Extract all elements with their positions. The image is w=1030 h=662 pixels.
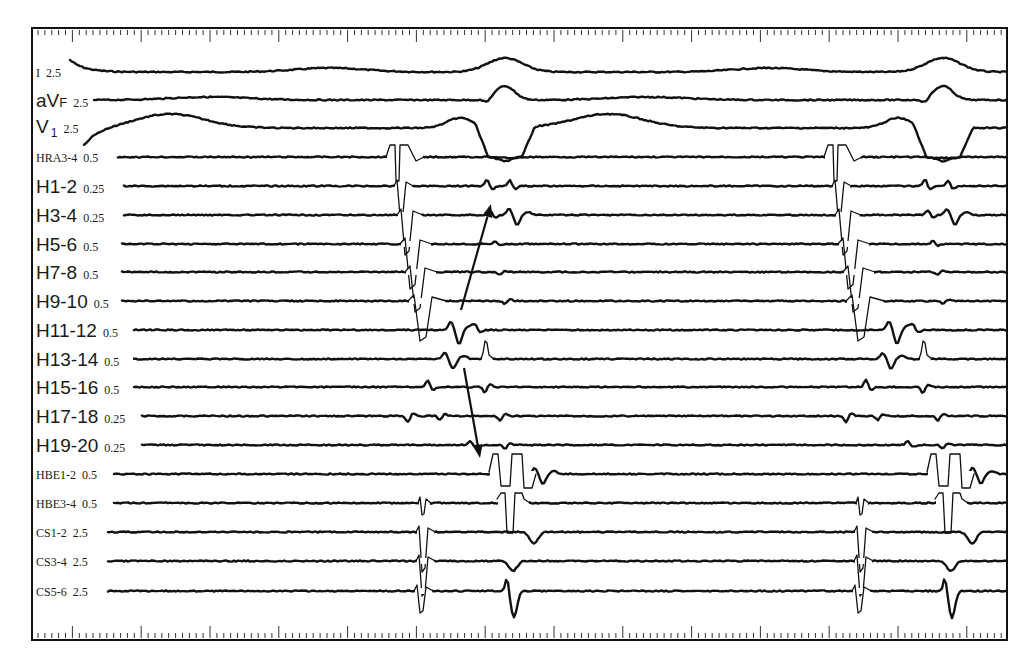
channel-gain: 0.25 — [83, 211, 104, 225]
trace-h15-16 — [134, 380, 1006, 393]
channel-label-h19-20: H19-200.25 — [36, 436, 125, 455]
trace-h13-14 — [134, 341, 1006, 368]
channel-label-hra3-4: HRA3-40.5 — [36, 149, 98, 165]
trace-h7-8 — [122, 266, 1006, 312]
channel-gain: 2.5 — [46, 66, 61, 80]
channel-name: CS1-2 — [36, 527, 67, 539]
channel-gain: 0.5 — [103, 326, 118, 340]
trace-h1-2 — [124, 180, 1006, 216]
channel-gain: 2.5 — [73, 585, 88, 599]
trace-v1 — [84, 114, 1006, 159]
channel-name: H1-2 — [36, 177, 77, 196]
channel-gain: 0.5 — [104, 355, 119, 369]
channel-name: CS5-6 — [36, 586, 67, 598]
channel-label-cs3-4: CS3-42.5 — [36, 553, 88, 569]
electrogram-traces — [0, 0, 1030, 662]
channel-name: HBE3-4 — [36, 498, 76, 510]
trace-hra3-4 — [118, 145, 1006, 181]
channel-name: H5-6 — [36, 235, 77, 254]
channel-label-hbe3-4: HBE3-40.5 — [36, 495, 97, 511]
channel-label-h7-8: H7-80.5 — [36, 263, 98, 282]
channel-name: H19-20 — [36, 436, 98, 455]
channel-gain: 2.5 — [73, 96, 88, 110]
trace-h19-20 — [142, 441, 1006, 448]
trace-h11-12 — [134, 322, 1006, 343]
channel-subscript: 1 — [51, 126, 58, 140]
channel-name: H17-18 — [36, 407, 98, 426]
channel-label-cs1-2: CS1-22.5 — [36, 524, 88, 540]
channel-label-h13-14: H13-140.5 — [36, 350, 119, 369]
channel-name: V — [36, 117, 49, 136]
channel-label-h3-4: H3-40.25 — [36, 206, 104, 225]
channel-traces — [70, 58, 1006, 619]
channel-gain: 0.5 — [83, 268, 98, 282]
channel-name: H7-8 — [36, 263, 77, 282]
trace-h17-18 — [142, 414, 1006, 423]
channel-name: CS3-4 — [36, 556, 67, 568]
channel-gain: 2.5 — [63, 122, 78, 136]
channel-gain: 0.5 — [104, 383, 119, 397]
channel-name: HBE1-2 — [36, 469, 76, 481]
channel-gain: 0.25 — [104, 441, 125, 455]
channel-gain: 0.5 — [83, 240, 98, 254]
trace-h5-6 — [122, 238, 1006, 289]
arrow-up — [461, 204, 492, 310]
channel-name: aV — [36, 91, 59, 110]
channel-gain: 2.5 — [73, 555, 88, 569]
channel-name: H13-14 — [36, 350, 98, 369]
channel-gain: 0.5 — [94, 297, 109, 311]
channel-subscript: F — [59, 95, 67, 110]
channel-gain: 0.5 — [83, 151, 98, 165]
channel-name: H11-12 — [36, 321, 97, 340]
channel-gain: 0.25 — [104, 412, 125, 426]
channel-gain: 0.5 — [82, 468, 97, 482]
trace-hbe3-4 — [114, 493, 1006, 533]
trace-h3-4 — [124, 209, 1006, 255]
channel-label-h17-18: H17-180.25 — [36, 407, 125, 426]
channel-label-cs5-6: CS5-62.5 — [36, 583, 88, 599]
channel-label-h11-12: H11-120.5 — [36, 321, 118, 340]
channel-name: H3-4 — [36, 206, 77, 225]
time-ruler-top — [38, 30, 1001, 42]
channel-label-i: I2.5 — [36, 64, 61, 80]
channel-label-h5-6: H5-60.5 — [36, 235, 98, 254]
channel-name: H9-10 — [36, 292, 88, 311]
channel-name: HRA3-4 — [36, 152, 77, 164]
trace-h9-10 — [122, 295, 1006, 341]
time-ruler-bottom — [38, 626, 1001, 638]
trace-cs1-2 — [108, 526, 1006, 572]
channel-gain: 2.5 — [73, 526, 88, 540]
channel-label-h1-2: H1-20.25 — [36, 177, 104, 196]
channel-label-h15-16: H15-160.5 — [36, 378, 119, 397]
channel-gain: 0.5 — [82, 497, 97, 511]
channel-gain: 0.25 — [83, 182, 104, 196]
trace-i — [70, 58, 1006, 73]
trace-hbe1-2 — [114, 454, 1006, 488]
channel-name: H15-16 — [36, 378, 98, 397]
trace-avf — [94, 86, 1006, 102]
channel-label-hbe1-2: HBE1-20.5 — [36, 466, 97, 482]
channel-label-v1: V12.5 — [36, 117, 78, 139]
channel-label-h9-10: H9-100.5 — [36, 292, 109, 311]
trace-cs5-6 — [108, 580, 1006, 619]
channel-name: I — [36, 67, 40, 79]
channel-label-avf: aVF2.5 — [36, 91, 88, 110]
